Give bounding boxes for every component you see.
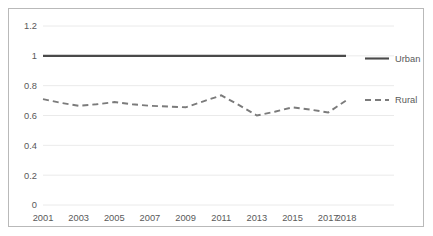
y-axis-tick-label: 0.2 — [24, 171, 37, 181]
x-axis-tick-label: 2013 — [247, 213, 268, 223]
legend-label-urban: Urban — [395, 54, 420, 64]
y-axis-tick-label: 0.8 — [24, 81, 37, 91]
x-axis-tick-label: 2007 — [140, 213, 161, 223]
y-axis-tick-label: 0.6 — [24, 111, 37, 121]
x-axis-tick-label: 2009 — [175, 213, 196, 223]
x-axis-tick-label: 2015 — [282, 213, 303, 223]
x-axis-tick-label: 2003 — [68, 213, 89, 223]
y-axis-tick-label: 0.4 — [24, 141, 37, 151]
x-axis-tick-label: 2018 — [336, 213, 357, 223]
x-axis-tick-label: 2001 — [33, 213, 54, 223]
line-chart: 00.20.40.60.811.220012003200520072009201… — [9, 9, 423, 226]
y-axis-tick-label: 1.2 — [24, 21, 37, 31]
legend-label-rural: Rural — [395, 95, 417, 105]
x-axis-tick-label: 2005 — [104, 213, 125, 223]
chart-plot-area: 00.20.40.60.811.220012003200520072009201… — [9, 9, 423, 226]
chart-frame: 00.20.40.60.811.220012003200520072009201… — [8, 8, 424, 227]
x-axis-tick-label: 2011 — [211, 213, 231, 223]
series-line-rural — [43, 95, 346, 115]
y-axis-tick-label: 1 — [32, 51, 37, 61]
y-axis-tick-label: 0 — [32, 200, 37, 210]
